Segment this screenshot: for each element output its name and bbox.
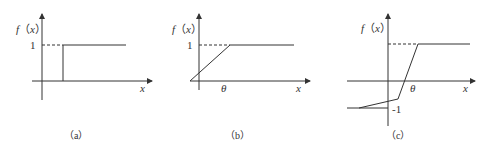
panel-a: f（x） 1 x （a）: [16, 14, 152, 141]
panel-b: f（x） 1 θ x （b）: [172, 14, 310, 141]
x-label: x: [462, 82, 468, 94]
caption-c: （c）: [386, 130, 410, 141]
tick-1: 1: [30, 39, 36, 51]
caption-b: （b）: [225, 130, 250, 141]
tick-neg1: -1: [392, 103, 401, 115]
x-label: x: [295, 82, 301, 94]
tick-theta: θ: [410, 82, 416, 94]
ramp-curve: [190, 45, 294, 81]
tick-1: 1: [187, 39, 193, 51]
y-label: f（x）: [172, 23, 202, 35]
activation-functions-figure: f（x） 1 x （a） f（x） 1 θ x （b） f（x） -1 θ x …: [0, 0, 488, 150]
tick-theta: θ: [221, 82, 227, 94]
y-label: f（x）: [16, 23, 46, 35]
caption-a: （a）: [64, 130, 88, 141]
x-label: x: [139, 82, 145, 94]
panel-c: f（x） -1 θ x （c）: [347, 14, 475, 141]
piecewise-curve: [359, 44, 470, 108]
y-label: f（x）: [361, 22, 391, 34]
step-curve: [63, 45, 126, 81]
